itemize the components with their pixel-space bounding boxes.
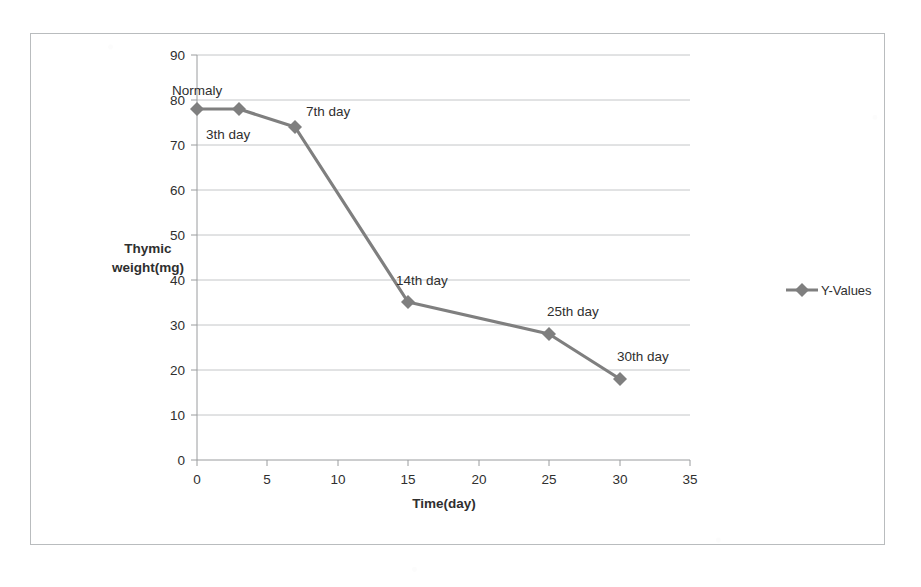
y-tick-label-10: 10 xyxy=(170,408,185,423)
y-axis-title-line1: Thymic xyxy=(124,241,172,256)
data-point-3[interactable] xyxy=(232,102,246,116)
y-axis-title-line2: weight(mg) xyxy=(111,260,184,275)
chart-legend[interactable]: Y-Values xyxy=(786,283,872,298)
y-tick-labels: 0 10 20 30 40 50 60 70 80 90 xyxy=(170,48,185,468)
y-tickmarks xyxy=(191,55,197,460)
annotation-normaly: Normaly xyxy=(172,83,223,98)
annotation-30th-day: 30th day xyxy=(617,349,669,364)
annotation-3th-day: 3th day xyxy=(206,127,251,142)
annotation-7th-day: 7th day xyxy=(306,104,351,119)
x-tick-labels: 0 5 10 15 20 25 30 35 xyxy=(193,472,697,487)
data-annotations: Normaly 3th day 7th day 14th day 25th da… xyxy=(172,83,669,364)
x-tick-label-35: 35 xyxy=(682,472,697,487)
axes xyxy=(197,55,690,460)
data-point-0[interactable] xyxy=(190,102,204,116)
annotation-14th-day: 14th day xyxy=(396,273,448,288)
x-tick-label-20: 20 xyxy=(471,472,486,487)
x-tick-label-5: 5 xyxy=(263,472,271,487)
chart-figure: 0 10 20 30 40 50 60 70 80 90 0 5 10 15 2… xyxy=(0,0,921,587)
y-tick-label-70: 70 xyxy=(170,138,185,153)
annotation-25th-day: 25th day xyxy=(547,304,599,319)
y-tick-label-40: 40 xyxy=(170,273,185,288)
y-tick-label-0: 0 xyxy=(177,453,185,468)
y-tick-label-90: 90 xyxy=(170,48,185,63)
legend-marker-icon xyxy=(795,283,809,297)
y-tick-label-50: 50 xyxy=(170,228,185,243)
chart-canvas: 0 10 20 30 40 50 60 70 80 90 0 5 10 15 2… xyxy=(0,0,921,587)
series-line-y-values[interactable] xyxy=(197,109,620,379)
x-tick-label-25: 25 xyxy=(541,472,556,487)
y-tick-label-60: 60 xyxy=(170,183,185,198)
x-tick-label-10: 10 xyxy=(330,472,345,487)
legend-label-y-values: Y-Values xyxy=(821,283,872,298)
x-axis-title: Time(day) xyxy=(412,496,476,511)
x-tickmarks xyxy=(197,460,690,466)
y-tick-label-30: 30 xyxy=(170,318,185,333)
x-tick-label-30: 30 xyxy=(612,472,627,487)
x-tick-label-15: 15 xyxy=(400,472,415,487)
x-tick-label-0: 0 xyxy=(193,472,201,487)
y-tick-label-20: 20 xyxy=(170,363,185,378)
